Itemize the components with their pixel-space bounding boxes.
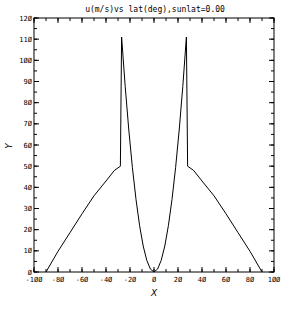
y-tick-label: 6Ø (24, 142, 33, 150)
y-tick-label: 2Ø (24, 226, 33, 234)
x-axis-label: X (150, 288, 158, 298)
data-series-line (46, 37, 262, 272)
y-tick-label: 12Ø (19, 15, 32, 23)
y-tick-label: 7Ø (24, 120, 33, 128)
y-axis-label: Y (4, 142, 14, 149)
x-tick-label: -2Ø (124, 276, 137, 284)
y-tick-label: 1Ø (24, 247, 33, 255)
y-tick-label: 11Ø (19, 36, 32, 44)
x-tick-label: 4Ø (198, 276, 207, 284)
x-tick-label: Ø (152, 276, 157, 284)
y-tick-label: 9Ø (24, 78, 33, 86)
y-tick-label: 4Ø (24, 184, 33, 192)
y-tick-label: 5Ø (24, 163, 33, 171)
chart: u(m/s)vs lat(deg),sunlat=0.00 -1ØØ-8Ø-6Ø… (0, 0, 293, 309)
x-tick-label: 6Ø (222, 276, 231, 284)
x-tick-label: -8Ø (52, 276, 65, 284)
x-axis: -1ØØ-8Ø-6Ø-4Ø-2ØØ2Ø4Ø6Ø8Ø1ØØ (26, 18, 282, 284)
y-tick-label: 8Ø (24, 99, 33, 107)
y-axis: Ø1Ø2Ø3Ø4Ø5Ø6Ø7Ø8Ø9Ø1ØØ11Ø12Ø (19, 15, 274, 277)
plot-frame (34, 18, 274, 272)
x-tick-label: 8Ø (246, 276, 255, 284)
x-tick-label: -4Ø (100, 276, 113, 284)
x-tick-label: -6Ø (76, 276, 89, 284)
x-tick-label: 1ØØ (268, 276, 281, 284)
y-tick-label: 3Ø (24, 205, 33, 213)
y-tick-label: 1ØØ (19, 57, 32, 65)
chart-title: u(m/s)vs lat(deg),sunlat=0.00 (85, 5, 225, 14)
x-tick-label: -1ØØ (26, 276, 44, 284)
x-tick-label: 2Ø (174, 276, 183, 284)
